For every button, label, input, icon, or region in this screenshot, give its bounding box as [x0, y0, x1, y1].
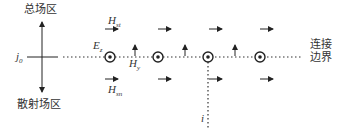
scattered-field-region-label: 散射场区: [17, 98, 61, 111]
h-scattered-label: Hsn: [108, 83, 122, 98]
source-label: j0: [16, 50, 23, 65]
ez-node: [153, 52, 163, 62]
index-label: i: [201, 112, 204, 124]
ez-label: Ez: [93, 39, 102, 54]
hy-label: Hy: [129, 57, 140, 72]
connecting-boundary-line2: 边界: [310, 51, 332, 64]
connecting-boundary-label: 连接 边界: [310, 38, 332, 64]
total-field-region-label: 总场区: [24, 3, 57, 16]
ez-node: [105, 52, 115, 62]
h-total-label: Hst: [108, 14, 121, 29]
connecting-boundary-line1: 连接: [310, 38, 332, 51]
ez-node: [255, 52, 265, 62]
ez-node: [203, 52, 213, 62]
